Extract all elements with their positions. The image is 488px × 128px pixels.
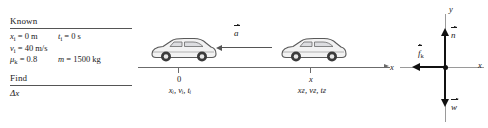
position-variables-initial: xᵢ, vᵢ, tᵢ [154,85,206,95]
fbd-x-axis-label: x [478,60,482,70]
normal-force-arrow-head [441,28,449,36]
normal-force-symbol: n [451,30,456,40]
known-cell: m = 1500 kg [58,54,101,65]
car-hubcap-front [164,54,169,59]
known-expression: = 0 m [16,31,38,41]
known-cell: μk = 0.8 [10,54,58,66]
car-initial-icon [148,34,218,64]
position-number-initial: 0 [169,74,189,84]
known-subscript: i [14,35,16,42]
known-values-list: xi = 0 mti = 0 s vi = 40 m/s μk = 0.8m =… [10,31,132,66]
known-row: vi = 40 m/s [10,43,132,55]
physics-figure: Known xi = 0 mti = 0 s vi = 40 m/s μk = … [0,0,488,128]
known-subscript: i [60,35,62,42]
tick-initial [178,68,179,73]
acceleration-arrow-icon [216,43,272,52]
tick-final [310,68,311,73]
known-subscript: k [14,58,17,65]
find-heading: Find [10,73,132,84]
normal-force-arrow-shaft [444,35,446,68]
car-hubcap-rear [200,54,205,59]
car-hubcap-rear [330,54,335,59]
known-cell: vi = 40 m/s [10,43,58,55]
known-row: μk = 0.8m = 1500 kg [10,54,132,66]
normal-force-label: n [451,30,456,40]
known-find-table: Known xi = 0 mti = 0 s vi = 40 m/s μk = … [10,16,132,99]
acceleration-arrow-shaft [220,47,272,48]
motion-diagram: a x 0 x xᵢ, vᵢ, tᵢ xғ, vғ, tғ [138,20,398,100]
friction-force-subscript: k [421,52,424,59]
fbd-y-axis-label: y [449,4,453,14]
known-expression: = 0 s [62,31,81,41]
known-cell: ti = 0 s [58,31,81,43]
known-row: xi = 0 mti = 0 s [10,31,132,43]
x-axis-label: x [390,62,394,72]
known-subscript: i [14,47,16,54]
ground-line [138,67,390,68]
known-heading: Known [10,16,132,27]
weight-force-label: w [451,102,457,112]
car-hubcap-front [294,54,299,59]
known-expression: = 0.8 [18,54,38,64]
acceleration-symbol: a [234,28,239,38]
friction-force-label: fk [418,48,424,58]
x-axis-arrowhead [384,64,389,68]
known-expression: = 1500 kg [64,54,101,64]
weight-force-arrow-head [441,99,449,107]
car-final-icon [278,34,348,64]
find-rule [10,85,132,86]
fbd-origin-dot [443,65,448,70]
position-variables-final: xғ, vғ, tғ [286,85,338,95]
find-value: Δx [10,88,132,99]
friction-force-arrow-head [412,63,420,71]
free-body-diagram: y x n fk w [398,4,488,126]
acceleration-arrow-head [216,45,222,51]
known-expression: = 40 m/s [16,43,48,53]
weight-force-arrow-shaft [444,68,446,101]
known-rule-top [10,28,132,29]
acceleration-label: a [234,28,239,38]
known-cell: xi = 0 m [10,31,58,43]
position-number-final: x [301,74,321,84]
weight-force-symbol: w [451,102,457,112]
